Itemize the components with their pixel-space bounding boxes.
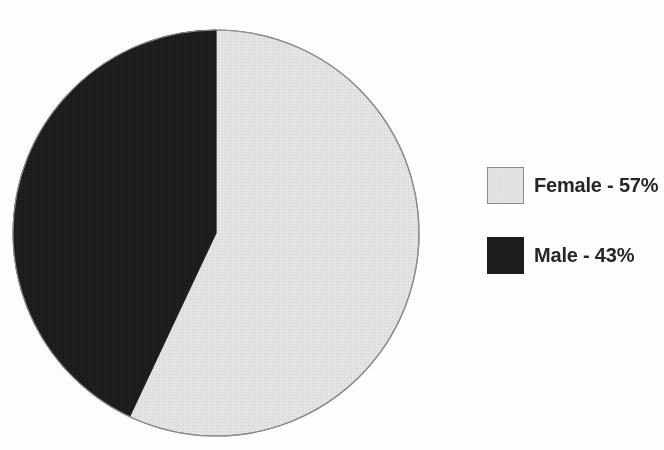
pie-svg bbox=[12, 29, 420, 437]
pie-graphic bbox=[12, 29, 420, 437]
pie-chart-figure: Gender of Offenders bbox=[0, 0, 664, 450]
chart-title: Gender of Offenders bbox=[0, 0, 664, 3]
legend-swatch-female-icon bbox=[487, 167, 524, 204]
chart-legend: Female - 57% Male - 43% bbox=[487, 166, 663, 274]
legend-item-male[interactable]: Male - 43% bbox=[487, 236, 663, 274]
legend-label-female: Female - 57% bbox=[534, 174, 658, 197]
legend-item-female[interactable]: Female - 57% bbox=[487, 166, 663, 204]
legend-swatch-male-icon bbox=[487, 237, 524, 274]
legend-label-male: Male - 43% bbox=[534, 244, 634, 267]
